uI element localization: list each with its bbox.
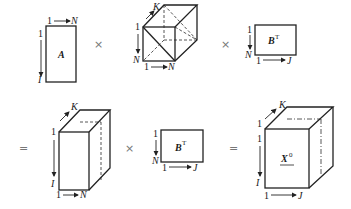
- svg-text:B: B: [174, 142, 182, 153]
- matrix-a-label: A: [57, 49, 65, 60]
- svg-text:T: T: [275, 33, 280, 41]
- times-operator: ×: [94, 38, 103, 51]
- svg-text:N: N: [79, 189, 88, 200]
- svg-text:1: 1: [264, 190, 269, 201]
- svg-text:1: 1: [47, 15, 52, 26]
- svg-text:1: 1: [153, 128, 158, 139]
- svg-text:B: B: [267, 35, 275, 46]
- tensor-x0-label: X: [280, 153, 288, 164]
- svg-text:N: N: [132, 54, 141, 65]
- times-operator: ×: [221, 38, 230, 51]
- svg-text:1: 1: [135, 21, 140, 32]
- svg-text:1: 1: [257, 133, 262, 144]
- arrow-depth-icon: [265, 109, 276, 119]
- svg-text:N: N: [244, 49, 253, 60]
- svg-text:J: J: [193, 162, 198, 173]
- svg-text:K: K: [70, 101, 79, 112]
- svg-text:K: K: [152, 1, 161, 12]
- matrix-b-transpose: B T 1 N 1 J: [244, 24, 296, 66]
- svg-text:1: 1: [38, 28, 43, 39]
- equals-operator: =: [229, 142, 238, 155]
- svg-text:J: J: [298, 190, 303, 201]
- matrix-b-transpose-2: B T 1 N 1 J: [151, 128, 203, 173]
- svg-text:I: I: [37, 74, 42, 85]
- svg-text:1: 1: [144, 61, 149, 72]
- svg-text:1: 1: [256, 55, 261, 66]
- tensor-cube-nnk: K 1 N 1 N: [132, 1, 197, 72]
- svg-text:N: N: [167, 61, 176, 72]
- tensor-tall-ink: K 1 I 1 N: [50, 101, 110, 200]
- arrow-depth-icon: [146, 11, 154, 19]
- svg-text:T: T: [182, 139, 187, 147]
- tensor-product-diagram: A 1 N 1 I × K 1 N 1 N × B T 1: [0, 0, 351, 209]
- tensor-x0: X 0 1 K 1 I 1 J: [255, 99, 333, 201]
- svg-text:I: I: [50, 178, 55, 189]
- arrow-depth-icon: [60, 112, 69, 121]
- svg-text:1: 1: [257, 118, 262, 129]
- svg-text:1: 1: [247, 24, 252, 35]
- svg-text:K: K: [278, 99, 287, 110]
- svg-text:N: N: [151, 155, 160, 166]
- equals-operator: =: [19, 142, 28, 155]
- svg-text:1: 1: [56, 189, 61, 200]
- svg-text:1: 1: [51, 126, 56, 137]
- svg-text:1: 1: [162, 162, 167, 173]
- svg-text:I: I: [255, 177, 260, 188]
- matrix-a: A 1 N 1 I: [37, 15, 79, 85]
- times-operator: ×: [125, 142, 134, 155]
- svg-text:N: N: [70, 15, 79, 26]
- svg-text:J: J: [287, 55, 292, 66]
- svg-text:0: 0: [289, 151, 293, 159]
